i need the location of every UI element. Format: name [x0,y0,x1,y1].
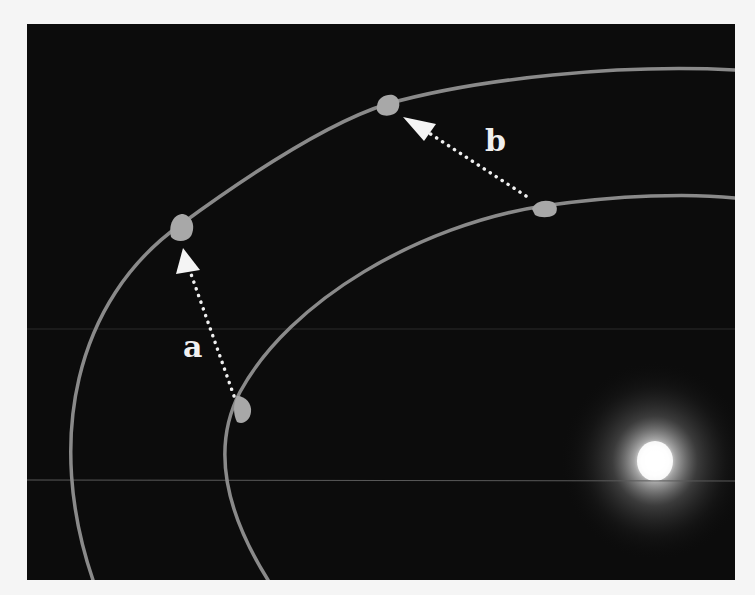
arrow-a-head [176,248,200,274]
arrow-b-head [403,117,436,141]
diagram-stage: a b [0,0,755,595]
star [560,361,735,561]
arrow-b-dotted-line [429,133,526,196]
space-panel: a b [27,24,735,580]
planet-outer-b [377,95,400,116]
orbit-diagram [27,24,735,580]
label-a: a [183,332,202,362]
planet-outer-a [170,214,193,241]
star-core [637,441,673,481]
arrow-a [176,248,234,396]
label-b: b [485,126,506,156]
planet-inner-b [532,201,557,218]
arrow-b [403,117,526,196]
planet-inner-a [234,396,251,423]
